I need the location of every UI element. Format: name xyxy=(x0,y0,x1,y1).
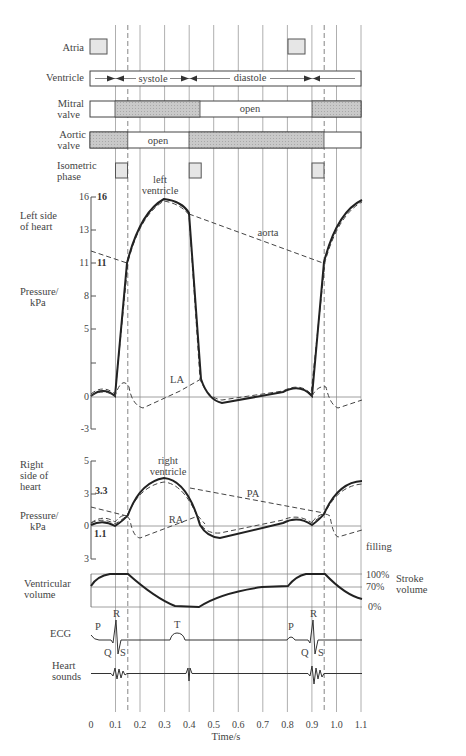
svg-text:0.6: 0.6 xyxy=(232,719,245,730)
mitral-open-label: open xyxy=(240,103,261,114)
volume-label-2: volume xyxy=(24,589,56,600)
right-y-axis: 5 3 0 3 3.3 1.1 xyxy=(84,455,361,564)
isometric-box-1 xyxy=(116,163,128,178)
aorta-pressure-curve xyxy=(91,214,323,263)
svg-text:5: 5 xyxy=(84,323,89,334)
right-pressure-label-1: Pressure/ xyxy=(20,510,59,521)
svg-text:-3: -3 xyxy=(81,423,89,434)
pa-pressure-curve xyxy=(91,488,324,516)
aortic-open-label: open xyxy=(148,135,169,146)
heart-sounds-label-1: Heart xyxy=(52,660,75,671)
filling-label: filling xyxy=(366,541,392,552)
isometric-box-2 xyxy=(189,163,201,178)
svg-text:0.9: 0.9 xyxy=(306,719,319,730)
ra-label: RA xyxy=(169,514,184,525)
heart-sounds-label-2: sounds xyxy=(52,671,81,682)
mitral-label-2: valve xyxy=(57,109,80,120)
systole-label: systole xyxy=(138,73,168,84)
mitral-label-1: Mitral xyxy=(58,98,84,109)
ventricle-phase-bar: systole diastole xyxy=(90,71,361,86)
left-pressure-label-1: Pressure/ xyxy=(20,286,59,297)
rv-max-value: 3.3 xyxy=(95,485,108,496)
volume-0-label: 0% xyxy=(368,601,381,612)
left-heart-title-1: Left side xyxy=(20,210,57,221)
svg-text:0.2: 0.2 xyxy=(134,719,147,730)
mitral-valve-bar: open xyxy=(90,101,361,117)
phase-dashed-lines xyxy=(128,25,324,712)
ecg-label: ECG xyxy=(50,628,71,639)
volume-100-label: 100% xyxy=(366,569,389,580)
svg-text:16: 16 xyxy=(79,191,89,202)
svg-text:5: 5 xyxy=(84,455,89,466)
svg-text:1.0: 1.0 xyxy=(330,719,343,730)
svg-text:0.4: 0.4 xyxy=(183,719,196,730)
lv-label-2: ventricle xyxy=(142,185,179,196)
aortic-label-1: Aortic xyxy=(59,129,86,140)
ecg-p-label-2: P xyxy=(288,621,294,632)
atrial-systole-box-2 xyxy=(288,39,305,54)
rv-label-2: ventricle xyxy=(150,466,187,477)
right-pressure-label-2: kPa xyxy=(30,521,46,532)
ecg-r-label-2: R xyxy=(310,608,317,619)
ecg-s-label-2: S xyxy=(318,647,324,658)
pa-min-value: 1.1 xyxy=(94,528,107,539)
lv-max-value: 16 xyxy=(97,191,107,202)
rv-label-1: right xyxy=(158,455,178,466)
atrial-systole-box-1 xyxy=(90,39,107,54)
svg-text:0.5: 0.5 xyxy=(207,719,220,730)
volume-reference-lines xyxy=(91,574,362,607)
left-pressure-label-2: kPa xyxy=(30,297,46,308)
right-heart-title-1: Right xyxy=(20,459,43,470)
la-pressure-curve xyxy=(91,379,362,408)
svg-text:0: 0 xyxy=(84,391,89,402)
isometric-label-2: phase xyxy=(57,171,81,182)
svg-text:3: 3 xyxy=(84,553,89,564)
aortic-valve-bar: open xyxy=(90,132,361,148)
svg-text:0: 0 xyxy=(89,719,94,730)
diastole-label: diastole xyxy=(234,72,267,83)
pa-label: PA xyxy=(247,488,260,499)
atria-label: Atria xyxy=(62,42,84,53)
svg-text:0.1: 0.1 xyxy=(109,719,122,730)
heart-sounds-trace xyxy=(91,666,362,684)
svg-text:3: 3 xyxy=(84,488,89,499)
stroke-volume-label-1: Stroke xyxy=(396,573,424,584)
ecg-q-label-2: Q xyxy=(301,647,309,658)
time-grid xyxy=(116,25,362,712)
svg-text:8: 8 xyxy=(84,290,89,301)
ecg-s-label: S xyxy=(120,647,126,658)
aortic-label-2: valve xyxy=(57,140,80,151)
lv-label-1: left xyxy=(153,174,167,185)
svg-text:0.7: 0.7 xyxy=(257,719,270,730)
svg-text:0: 0 xyxy=(84,520,89,531)
volume-label-1: Ventricular xyxy=(24,578,71,589)
ecg-q-label: Q xyxy=(104,647,112,658)
isometric-label-1: Isometric xyxy=(57,160,97,171)
rv-pressure-curve xyxy=(91,478,362,538)
svg-text:13: 13 xyxy=(79,224,89,235)
x-axis-ticks: 0 0.1 0.2 0.3 0.4 0.5 0.6 0.7 0.8 0.9 1.… xyxy=(89,719,368,730)
aorta-min-value: 11 xyxy=(97,257,106,268)
ecg-p-label: P xyxy=(95,621,101,632)
lv-pressure-curve xyxy=(91,199,362,403)
x-axis-label: Time/s xyxy=(212,731,241,742)
isometric-box-3 xyxy=(312,163,324,178)
ventricle-label: Ventricle xyxy=(46,72,84,83)
svg-text:0.3: 0.3 xyxy=(158,719,171,730)
right-heart-title-2: side of xyxy=(20,470,49,481)
svg-text:0.8: 0.8 xyxy=(281,719,294,730)
aorta-label: aorta xyxy=(258,227,279,238)
svg-text:1.1: 1.1 xyxy=(355,719,368,730)
volume-70-label: 70% xyxy=(366,581,384,592)
right-heart-title-3: heart xyxy=(20,481,41,492)
ecg-t-label: T xyxy=(174,619,181,630)
stroke-volume-label-2: volume xyxy=(396,584,428,595)
la-label: LA xyxy=(170,374,184,385)
ecg-r-label: R xyxy=(113,608,120,619)
svg-text:11: 11 xyxy=(79,257,89,268)
left-heart-title-2: of heart xyxy=(20,221,52,232)
ventricular-volume-curve xyxy=(91,574,362,607)
cardiac-cycle-diagram: Atria Ventricle Mitral valve Aortic valv… xyxy=(0,0,466,756)
